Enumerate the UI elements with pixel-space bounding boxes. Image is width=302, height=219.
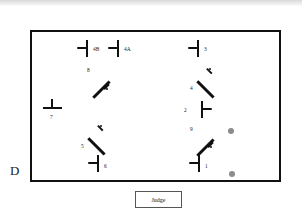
marker-bar — [197, 40, 200, 57]
top-grey-strip — [0, 0, 302, 6]
marker-label-2: 2 — [184, 107, 187, 113]
judge-box-label: Judge — [152, 197, 166, 203]
marker-dot — [189, 162, 192, 165]
marker-label-1: 1 — [205, 163, 208, 169]
marker-label-5: 5 — [81, 143, 84, 149]
marker-dot — [209, 108, 212, 111]
marker-label-4a: 4A — [124, 46, 131, 52]
marker-bar — [86, 40, 89, 57]
marker-dot — [106, 88, 108, 90]
marker-bar — [198, 155, 201, 172]
marker-label-4: 4 — [190, 85, 193, 91]
marker-label-3: 3 — [204, 46, 207, 52]
marker-label-6: 6 — [104, 163, 107, 169]
marker-dot — [51, 99, 53, 101]
marker-dot — [88, 162, 91, 165]
marker-bar — [97, 155, 100, 172]
grey-circle-bottom[interactable] — [229, 171, 235, 177]
marker-bar — [87, 137, 105, 155]
grey-circle-top[interactable] — [228, 128, 234, 134]
marker-dot — [210, 146, 212, 148]
marker-dot — [188, 47, 191, 50]
marker-bar — [196, 80, 214, 98]
marker-dot — [108, 47, 111, 50]
arena-rectangle: 4B 4A 3 8 4 7 2 — [30, 30, 281, 182]
marker-label-8: 8 — [87, 67, 90, 73]
section-label-d: D — [10, 163, 19, 179]
judge-box[interactable]: Judge — [135, 191, 182, 208]
marker-label-7: 7 — [50, 114, 53, 120]
marker-dot — [77, 47, 80, 50]
marker-bar — [117, 40, 120, 57]
marker-label-4b: 4B — [93, 46, 99, 52]
marker-label-9: 9 — [190, 126, 193, 132]
